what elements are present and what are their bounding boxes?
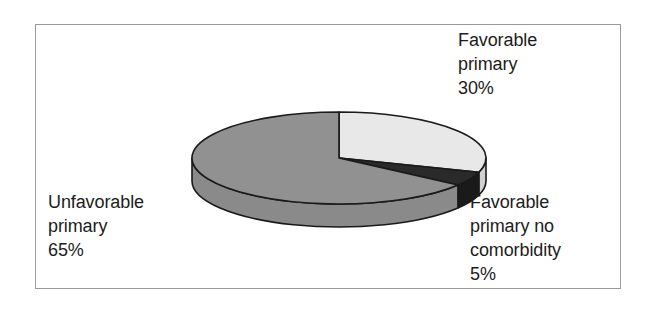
pie-slices-group <box>192 112 486 227</box>
slice-label-favorable-primary: Favorable primary 30% <box>458 28 537 100</box>
slice-label-favorable-primary-no-comorbidity: Favorable primary no comorbidity 5% <box>470 190 561 286</box>
slice-label-unfavorable-primary: Unfavorable primary 65% <box>48 190 144 262</box>
pie-chart-figure: Favorable primary 30% Unfavorable primar… <box>0 0 654 309</box>
